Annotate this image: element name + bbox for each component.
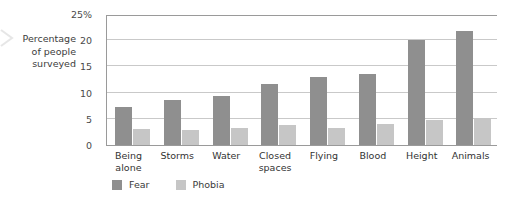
bar-groups xyxy=(107,16,497,145)
bar-fear[interactable] xyxy=(261,84,278,145)
bar-fear[interactable] xyxy=(310,77,327,145)
x-axis-category-labels: BeingaloneStormsWaterClosedspacesFlyingB… xyxy=(106,150,497,173)
y-axis-tick-label: 15 xyxy=(58,62,92,72)
legend-label: Fear xyxy=(129,180,150,190)
legend-label: Phobia xyxy=(193,180,225,190)
bar-fear[interactable] xyxy=(359,74,376,145)
bar-fear[interactable] xyxy=(213,96,230,145)
y-axis-tick-label: 5 xyxy=(58,115,92,125)
y-axis-title-line-2: of people xyxy=(8,46,76,59)
bar-fear[interactable] xyxy=(115,107,132,145)
legend-item-phobia[interactable]: Phobia xyxy=(176,180,225,190)
x-axis-category-label: Water xyxy=(204,150,253,173)
bar-group xyxy=(302,16,351,145)
bar-group xyxy=(107,16,156,145)
y-axis-tick-label: 20 xyxy=(58,36,92,46)
x-axis-category-label: Storms xyxy=(155,150,204,173)
bar-fear[interactable] xyxy=(408,40,425,145)
bar-phobia[interactable] xyxy=(474,118,491,145)
bar-fear[interactable] xyxy=(164,100,181,145)
bar-group xyxy=(205,16,254,145)
plot-area xyxy=(106,15,497,146)
y-axis-tick-label: 10 xyxy=(58,89,92,99)
x-axis-category-label: Animals xyxy=(448,150,497,173)
legend-item-fear[interactable]: Fear xyxy=(112,180,150,190)
x-axis-category-label: Blood xyxy=(350,150,399,173)
chart-legend: FearPhobia xyxy=(112,180,251,190)
bar-group xyxy=(156,16,205,145)
bar-chart-figure: Percentage of people surveyed 0510152025… xyxy=(0,0,509,202)
legend-swatch-icon xyxy=(176,180,186,190)
bar-phobia[interactable] xyxy=(133,129,150,145)
x-axis-category-label: Closedspaces xyxy=(253,150,302,173)
bar-group xyxy=(253,16,302,145)
x-axis-category-label: Beingalone xyxy=(106,150,155,173)
y-axis-tick-label: 25% xyxy=(58,10,92,20)
bar-group xyxy=(351,16,400,145)
bar-group xyxy=(448,16,497,145)
bar-phobia[interactable] xyxy=(182,130,199,145)
bar-phobia[interactable] xyxy=(231,128,248,145)
bar-phobia[interactable] xyxy=(377,124,394,145)
y-axis-tick-label: 0 xyxy=(58,141,92,151)
x-axis-category-label: Height xyxy=(399,150,448,173)
bar-phobia[interactable] xyxy=(279,125,296,145)
legend-swatch-icon xyxy=(112,180,122,190)
x-axis-category-label: Flying xyxy=(302,150,351,173)
bar-phobia[interactable] xyxy=(426,120,443,145)
bar-group xyxy=(400,16,449,145)
bar-phobia[interactable] xyxy=(328,128,345,145)
bar-fear[interactable] xyxy=(456,31,473,145)
